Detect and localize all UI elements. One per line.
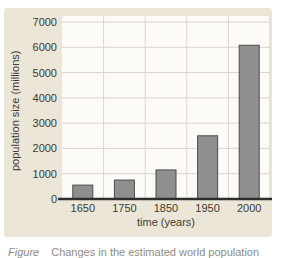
x-tick-label: 1750: [112, 202, 136, 214]
population-bar-chart: 0100020003000400050006000700016501750185…: [4, 8, 272, 237]
figure-caption-label: Figure: [8, 246, 39, 258]
bar-2000: [239, 45, 259, 199]
bar-1850: [156, 170, 176, 199]
y-tick-label: 1000: [33, 168, 57, 180]
y-tick-label: 3000: [33, 117, 57, 129]
chart-panel: 0100020003000400050006000700016501750185…: [4, 8, 272, 237]
y-tick-label: 7000: [33, 16, 57, 28]
y-tick-label: 6000: [33, 41, 57, 53]
x-axis-title: time (years): [137, 216, 195, 228]
y-tick-label: 0: [51, 193, 57, 205]
bar-1750: [114, 180, 134, 199]
y-tick-label: 4000: [33, 92, 57, 104]
bar-1950: [198, 136, 218, 199]
figure-caption-text: Changes in the estimated world populatio…: [51, 246, 259, 258]
y-axis-title: population size (millions): [9, 51, 21, 171]
figure-caption: FigureChanges in the estimated world pop…: [8, 246, 284, 258]
x-tick-label: 2000: [237, 202, 261, 214]
y-tick-label: 2000: [33, 142, 57, 154]
x-tick-label: 1650: [71, 202, 95, 214]
bar-1650: [73, 185, 93, 199]
x-tick-label: 1850: [154, 202, 178, 214]
x-tick-label: 1950: [195, 202, 219, 214]
y-tick-label: 5000: [33, 67, 57, 79]
